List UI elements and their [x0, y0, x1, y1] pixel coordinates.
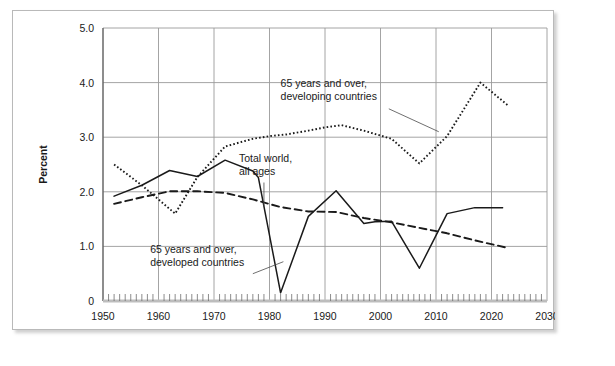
y-tick-label: 4.0 — [79, 77, 94, 89]
annot-developing-label: 65 years and over, — [281, 77, 367, 89]
x-tick-label: 1970 — [202, 310, 226, 322]
y-tick-label: 5.0 — [79, 22, 94, 34]
x-tick-label: 1960 — [147, 310, 171, 322]
figure-frame: 01.02.03.04.05.0195019601970198019902000… — [12, 10, 554, 330]
annot-total-world-label: Total world, — [239, 152, 292, 164]
annot-developed-label: 65 years and over, — [150, 243, 236, 255]
x-tick-label: 1990 — [313, 310, 337, 322]
x-tick-label: 2020 — [480, 310, 504, 322]
y-tick-label: 3.0 — [79, 131, 94, 143]
y-axis-title: Percent — [37, 145, 49, 184]
y-tick-label: 1.0 — [79, 240, 94, 252]
x-tick-label: 2030 — [535, 310, 555, 322]
x-tick-label: 2010 — [424, 310, 448, 322]
figure-root: 01.02.03.04.05.0195019601970198019902000… — [0, 0, 615, 366]
line-chart: 01.02.03.04.05.0195019601970198019902000… — [13, 11, 555, 331]
annot-developing-label: developing countries — [281, 90, 377, 102]
y-tick-label: 0 — [88, 295, 94, 307]
x-tick-label: 1950 — [91, 310, 115, 322]
annot-total-world-label: all ages — [239, 165, 275, 177]
x-tick-label: 2000 — [369, 310, 393, 322]
annot-developed-label: developed countries — [150, 256, 244, 268]
x-tick-label: 1980 — [258, 310, 282, 322]
y-tick-label: 2.0 — [79, 186, 94, 198]
